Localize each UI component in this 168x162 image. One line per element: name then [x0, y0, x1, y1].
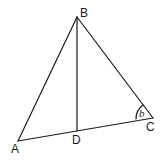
triangle-diagram: B C D A b	[0, 0, 168, 162]
segment-ac	[18, 118, 153, 141]
label-d: D	[72, 133, 81, 147]
angle-label-b: b	[139, 107, 145, 119]
label-b: B	[80, 6, 88, 20]
segment-ab	[18, 17, 77, 141]
label-c: C	[146, 120, 155, 134]
label-a: A	[11, 142, 19, 156]
segment-bc	[77, 17, 153, 118]
